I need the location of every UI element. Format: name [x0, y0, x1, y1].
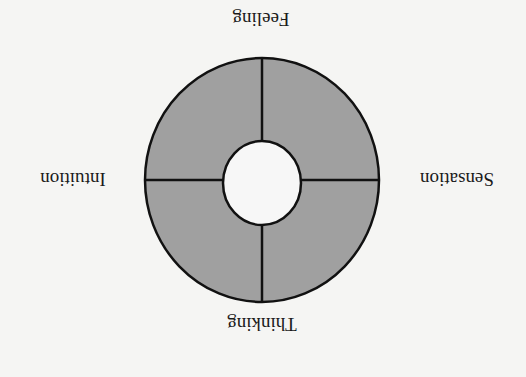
label-sensation: Sensation	[420, 169, 494, 190]
label-intuition: Intuition	[40, 169, 106, 190]
function-wheel	[145, 58, 379, 302]
label-feeling: Feeling	[232, 9, 289, 30]
label-thinking: Thinking	[227, 314, 297, 335]
four-functions-diagram: Feeling Intuition Sensation Thinking	[0, 0, 526, 377]
inner-circle	[223, 141, 301, 225]
